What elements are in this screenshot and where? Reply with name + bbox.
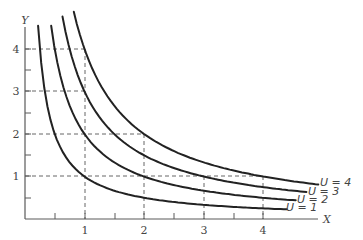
curve-u-3 xyxy=(63,17,307,192)
x-tick-label-3: 3 xyxy=(201,224,208,237)
curve-label-u-4: U = 4 xyxy=(320,176,351,189)
x-tick-label-4: 4 xyxy=(260,224,267,237)
x-tick-label-1: 1 xyxy=(82,224,89,237)
y-axis-label: Y xyxy=(21,14,30,27)
x-tick-label-2: 2 xyxy=(141,224,148,237)
curve-u-4 xyxy=(74,12,318,185)
x-axis-label: X xyxy=(322,213,332,226)
y-tick-label-4: 4 xyxy=(13,43,20,56)
y-tick-label-2: 2 xyxy=(13,128,20,141)
x-ticks xyxy=(55,213,263,219)
indifference-curves-chart: 1 2 3 4 1 2 3 4 Y X U = 1 U = 2 U = 3 U … xyxy=(0,0,363,240)
y-tick-label-3: 3 xyxy=(13,85,20,98)
curve-u-2 xyxy=(51,26,296,201)
y-tick-label-1: 1 xyxy=(13,170,20,183)
